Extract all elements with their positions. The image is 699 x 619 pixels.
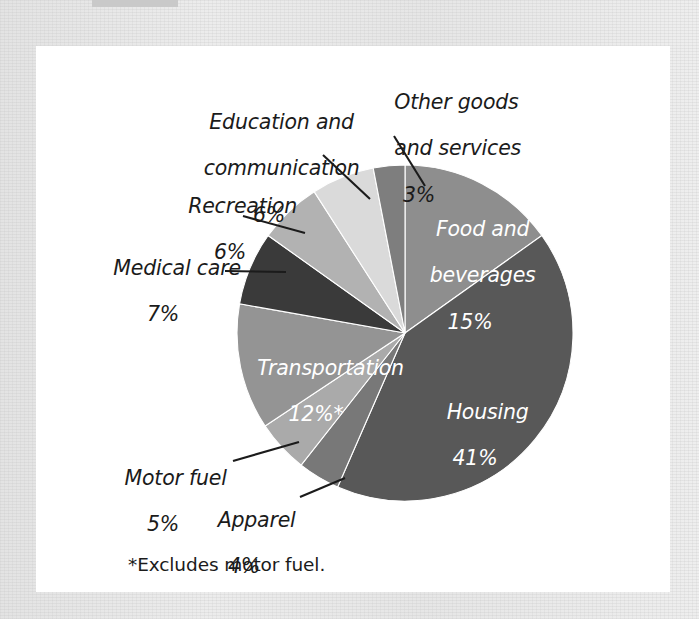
slice-label-value: 15% (400, 311, 540, 334)
slice-label-line2: and services (394, 136, 521, 160)
slice-label-line2: beverages (430, 263, 536, 287)
slice-label-line1: Housing (447, 400, 529, 424)
slice-label-value: 3% (403, 184, 549, 207)
slice-label-line1: Apparel (218, 508, 296, 532)
slice-label-apparel: Apparel 4% (185, 486, 303, 619)
slice-label-value: 7% (88, 303, 238, 326)
slice-label-line1: Transportation (257, 356, 404, 380)
page-root: Food and beverages 15% Housing 41% Trans… (0, 0, 699, 619)
slice-label-value: 41% (410, 447, 540, 470)
slice-label-value: 12%* (232, 403, 400, 426)
chart-footnote: *Excludes motor fuel. (128, 554, 325, 575)
slice-label-medical-care: Medical care 7% (88, 234, 238, 373)
slice-label-line1: Education and (209, 110, 354, 134)
slice-label-line1: Medical care (113, 256, 241, 280)
slice-label-transportation: Transportation 12%* (232, 334, 400, 473)
slice-label-other-goods-and-services: Other goods and services 3% (369, 68, 549, 253)
slice-label-line1: Other goods (394, 90, 518, 114)
slice-label-housing: Housing 41% (410, 378, 540, 517)
slice-label-line1: Recreation (188, 194, 297, 218)
